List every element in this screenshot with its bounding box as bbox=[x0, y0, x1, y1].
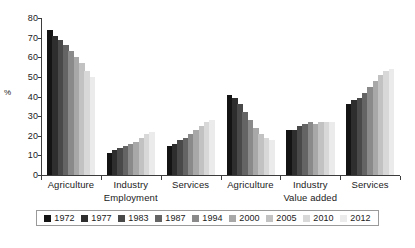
panel-label: Employment bbox=[41, 192, 221, 203]
x-axis-category-label: Agriculture bbox=[41, 179, 101, 190]
legend-label: 1972 bbox=[54, 213, 74, 223]
y-axis-tick-label: 30 bbox=[16, 111, 38, 121]
y-axis-tick-label: 10 bbox=[16, 150, 38, 160]
legend: 197219771983198719942000200520102012 bbox=[36, 210, 379, 226]
legend-label: 2005 bbox=[276, 213, 296, 223]
legend-item[interactable]: 1972 bbox=[41, 213, 78, 223]
legend-label: 2012 bbox=[350, 213, 370, 223]
legend-item[interactable]: 1994 bbox=[189, 213, 226, 223]
legend-label: 1977 bbox=[91, 213, 111, 223]
legend-item[interactable]: 2000 bbox=[226, 213, 263, 223]
legend-item[interactable]: 1983 bbox=[115, 213, 152, 223]
bar bbox=[149, 132, 155, 175]
legend-label: 2010 bbox=[313, 213, 333, 223]
x-axis-category-label: Agriculture bbox=[221, 179, 281, 190]
y-axis-tick-label: 0 bbox=[16, 170, 38, 180]
legend-label: 1983 bbox=[128, 213, 148, 223]
legend-swatch-icon bbox=[340, 215, 347, 222]
bar bbox=[209, 120, 215, 175]
legend-swatch-icon bbox=[192, 215, 199, 222]
group-separator-tick bbox=[400, 176, 401, 180]
y-axis-tick-label: 20 bbox=[16, 131, 38, 141]
legend-item[interactable]: 2010 bbox=[300, 213, 337, 223]
bar bbox=[389, 69, 395, 175]
x-axis-category-label: Services bbox=[161, 179, 221, 190]
bar bbox=[269, 140, 275, 175]
legend-swatch-icon bbox=[155, 215, 162, 222]
legend-label: 1994 bbox=[202, 213, 222, 223]
y-axis-tick-labels: 01020304050607080 bbox=[14, 0, 38, 186]
bar bbox=[90, 77, 96, 175]
y-axis-tick-label: 80 bbox=[16, 13, 38, 23]
legend-item[interactable]: 2012 bbox=[337, 213, 374, 223]
legend-swatch-icon bbox=[81, 215, 88, 222]
legend-label: 2000 bbox=[239, 213, 259, 223]
legend-swatch-icon bbox=[229, 215, 236, 222]
legend-item[interactable]: 1987 bbox=[152, 213, 189, 223]
bar-chart: % 01020304050607080 AgricultureIndustryS… bbox=[0, 0, 415, 248]
legend-swatch-icon bbox=[118, 215, 125, 222]
legend-swatch-icon bbox=[44, 215, 51, 222]
y-axis-title: % bbox=[4, 88, 11, 97]
y-axis-tick-label: 60 bbox=[16, 52, 38, 62]
y-axis-tick-label: 70 bbox=[16, 33, 38, 43]
legend-item[interactable]: 2005 bbox=[263, 213, 300, 223]
panel-label: Value added bbox=[221, 192, 401, 203]
legend-item[interactable]: 1977 bbox=[78, 213, 115, 223]
legend-swatch-icon bbox=[266, 215, 273, 222]
bar bbox=[329, 122, 335, 175]
x-axis-category-label: Industry bbox=[280, 179, 340, 190]
y-axis-tick-label: 50 bbox=[16, 72, 38, 82]
plot-area: % 01020304050607080 AgricultureIndustryS… bbox=[0, 0, 415, 186]
legend-swatch-icon bbox=[303, 215, 310, 222]
legend-label: 1987 bbox=[165, 213, 185, 223]
x-axis-category-label: Services bbox=[340, 179, 400, 190]
y-axis-tick-label: 40 bbox=[16, 92, 38, 102]
bars-layer bbox=[41, 18, 400, 175]
x-axis-category-label: Industry bbox=[101, 179, 161, 190]
